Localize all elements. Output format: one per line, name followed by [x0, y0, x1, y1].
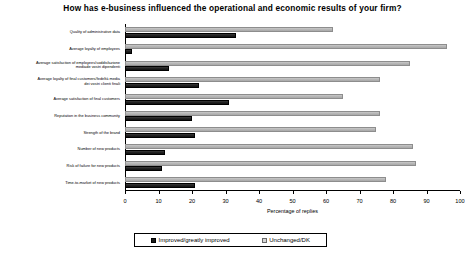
bar-unchanged	[125, 44, 447, 49]
x-axis-tick	[226, 191, 227, 194]
x-axis-tick-label: 0	[123, 198, 126, 204]
category-label: Time-to-market of new products	[0, 180, 120, 185]
x-axis-tick-label: 40	[256, 198, 262, 204]
bar-unchanged	[125, 144, 413, 149]
category-label: Average loyalty of employees	[0, 47, 120, 52]
bar-improved	[125, 49, 132, 54]
category-label: Quality of administrative data	[0, 30, 120, 35]
x-axis-tick	[326, 191, 327, 194]
bar-improved	[125, 116, 192, 121]
category-label: Strength of the brand	[0, 130, 120, 135]
legend-label-improved: Improved/greatly improved	[159, 237, 230, 243]
x-axis-tick	[460, 191, 461, 194]
x-axis-tick	[125, 191, 126, 194]
bar-unchanged	[125, 77, 380, 82]
category-label: Reputation in the business community	[0, 114, 120, 119]
category-label: Average loyalty of final customers/fedel…	[0, 78, 120, 87]
legend-item-improved: Improved/greatly improved	[151, 237, 230, 243]
bar-unchanged	[125, 127, 376, 132]
plot-area: 0102030405060708090100	[125, 24, 460, 191]
bar-unchanged	[125, 161, 416, 166]
x-axis-tick-label: 90	[423, 198, 429, 204]
x-axis-tick	[427, 191, 428, 194]
legend-label-unchanged: Unchanged/DK	[269, 237, 310, 243]
bar-improved	[125, 133, 195, 138]
bar-unchanged	[125, 177, 386, 182]
x-axis-tick-label: 20	[189, 198, 195, 204]
x-axis-tick	[293, 191, 294, 194]
x-axis-tick-label: 30	[222, 198, 228, 204]
bar-improved	[125, 66, 169, 71]
x-axis-tick-label: 50	[289, 198, 295, 204]
x-axis-tick-label: 60	[323, 198, 329, 204]
x-axis-tick	[360, 191, 361, 194]
bar-improved	[125, 83, 199, 88]
chart-legend: Improved/greatly improved Unchanged/DK	[134, 233, 327, 247]
x-axis-tick	[159, 191, 160, 194]
x-axis-tick	[192, 191, 193, 194]
category-label: Number of new products	[0, 147, 120, 152]
x-axis-tick-label: 100	[455, 198, 464, 204]
x-axis-tick	[259, 191, 260, 194]
bar-unchanged	[125, 111, 380, 116]
bar-unchanged	[125, 27, 333, 32]
x-axis-tick	[393, 191, 394, 194]
bar-improved	[125, 33, 236, 38]
bar-unchanged	[125, 61, 410, 66]
x-axis-tick-label: 10	[155, 198, 161, 204]
x-axis-tick-label: 70	[356, 198, 362, 204]
x-axis-label: Percentage of replies	[125, 208, 460, 214]
bar-chart: How has e-business influenced the operat…	[0, 0, 465, 258]
x-axis-tick-label: 80	[390, 198, 396, 204]
dark-square-icon	[151, 238, 156, 243]
legend-item-unchanged: Unchanged/DK	[262, 237, 310, 243]
bar-improved	[125, 100, 229, 105]
chart-title: How has e-business influenced the operat…	[0, 3, 465, 13]
bar-improved	[125, 183, 195, 188]
bar-unchanged	[125, 94, 343, 99]
category-label-column: Quality of administrative dataAverage lo…	[0, 24, 122, 191]
category-label: Risk of failure for new products	[0, 164, 120, 169]
bar-improved	[125, 166, 162, 171]
bar-improved	[125, 150, 165, 155]
category-label: Average satisfaction of employees/soddis…	[0, 61, 120, 70]
light-square-icon	[262, 238, 267, 243]
category-label: Average satisfaction of final customers	[0, 97, 120, 102]
